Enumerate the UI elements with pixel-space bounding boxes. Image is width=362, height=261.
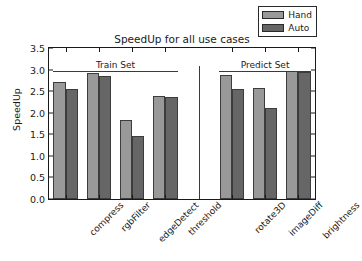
legend-swatch-hand [262,11,284,19]
legend-swatch-auto [262,24,284,32]
x-tick-mark [232,48,233,52]
x-tick-mark [132,195,133,199]
x-tick-mark [99,195,100,199]
y-tick-mark [311,177,315,178]
chart-legend: Hand Auto [258,6,317,37]
bar-rotate3D-hand [220,75,232,199]
bar-edgeDetect-auto [132,136,144,199]
y-tick-mark [311,155,315,156]
bar-rgbFilter-hand [87,73,99,199]
y-tick-label: 2.0 [30,107,45,118]
x-tick-mark [99,48,100,52]
x-tick-mark [165,48,166,52]
group-annotation-train: Train Set [53,60,178,72]
y-tick-mark [311,69,315,70]
y-tick-label: 2.5 [30,86,45,97]
y-tick-mark [49,48,53,49]
group-annotation-label: Predict Set [219,60,311,70]
legend-label-auto: Auto [288,23,309,33]
legend-label-hand: Hand [288,10,312,20]
x-axis-tick-labels: compressrgbFilteredgeDetectthresholdrota… [48,200,316,261]
group-annotation-rule [53,71,178,72]
bar-compress-auto [66,89,78,199]
x-tick-label-imageDiff: imageDiff [287,200,325,238]
plot-area: 0.00.51.01.52.02.53.03.5Train SetPredict… [48,47,316,200]
y-tick-label: 1.5 [30,129,45,140]
bar-edgeDetect-hand [120,120,132,199]
x-tick-mark [132,48,133,52]
y-tick-mark [311,112,315,113]
bar-brightness-hand [286,71,298,199]
x-tick-mark [165,195,166,199]
x-tick-label-compress: compress [87,200,125,238]
x-tick-mark [66,195,67,199]
bar-brightness-auto [298,72,310,199]
y-tick-label: 3.0 [30,64,45,75]
legend-item-auto: Auto [262,22,312,34]
y-tick-mark [311,134,315,135]
group-separator-line [199,66,200,199]
bar-rgbFilter-auto [99,76,111,199]
group-annotation-predict: Predict Set [219,60,311,72]
bar-imageDiff-hand [253,88,265,199]
y-axis-label: SpeedUp [11,80,22,140]
y-tick-label: 1.0 [30,150,45,161]
x-tick-mark [298,48,299,52]
group-annotation-rule [219,71,311,72]
x-tick-label-rotate3D: rotate3D [253,200,288,235]
x-tick-mark [265,48,266,52]
group-annotation-label: Train Set [53,60,178,70]
bar-imageDiff-auto [265,108,277,199]
legend-item-hand: Hand [262,9,312,21]
y-tick-label: 3.5 [30,43,45,54]
x-tick-mark [265,195,266,199]
bar-threshold-auto [165,97,177,199]
x-tick-mark [298,195,299,199]
x-tick-mark [66,48,67,52]
bar-compress-hand [53,82,65,199]
plot-inner: 0.00.51.01.52.02.53.03.5Train SetPredict… [49,48,315,199]
y-tick-mark [311,91,315,92]
bar-rotate3D-auto [232,89,244,199]
x-tick-mark [232,195,233,199]
bar-threshold-hand [153,96,165,199]
y-tick-mark [311,48,315,49]
x-tick-label-brightness: brightness [321,200,362,241]
y-tick-label: 0.5 [30,172,45,183]
y-tick-label: 0.0 [30,194,45,205]
